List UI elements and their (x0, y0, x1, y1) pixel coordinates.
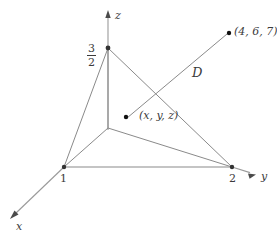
y-axis-arrowhead (248, 174, 256, 179)
y-axis-label: y (261, 171, 267, 182)
z-intercept-fraction-label: 3 2 (87, 43, 96, 68)
fraction-numerator: 3 (87, 43, 96, 54)
origin-to-y-intercept-line (108, 128, 232, 167)
y-intercept-label: 2 (229, 173, 236, 184)
distance-segment-label: D (192, 66, 202, 79)
axis-group (10, 10, 256, 219)
origin-to-x-intercept-line (64, 128, 108, 167)
plane-edge-z-to-y (108, 48, 232, 167)
y-intercept-dot (230, 165, 234, 169)
z-axis-label: z (115, 10, 121, 21)
fixed-point-dot (227, 31, 231, 35)
x-intercept-label: 1 (60, 173, 67, 184)
x-axis-label: x (16, 221, 22, 232)
variable-point-dot (124, 115, 128, 119)
fraction-denominator: 2 (87, 57, 96, 68)
x-axis-line (16, 167, 64, 213)
fixed-point-label: (4, 6, 7) (234, 26, 277, 37)
z-intercept-dot (106, 46, 111, 51)
diagram-canvas: z y x 1 2 3 2 (x, y, z) (4, 6, 7) D (0, 0, 277, 236)
distance-segment-line (127, 34, 227, 118)
x-intercept-dot (62, 165, 66, 169)
plane-edge-z-to-x (64, 48, 108, 167)
variable-point-label: (x, y, z) (139, 110, 178, 121)
z-axis-arrowhead (105, 10, 110, 18)
